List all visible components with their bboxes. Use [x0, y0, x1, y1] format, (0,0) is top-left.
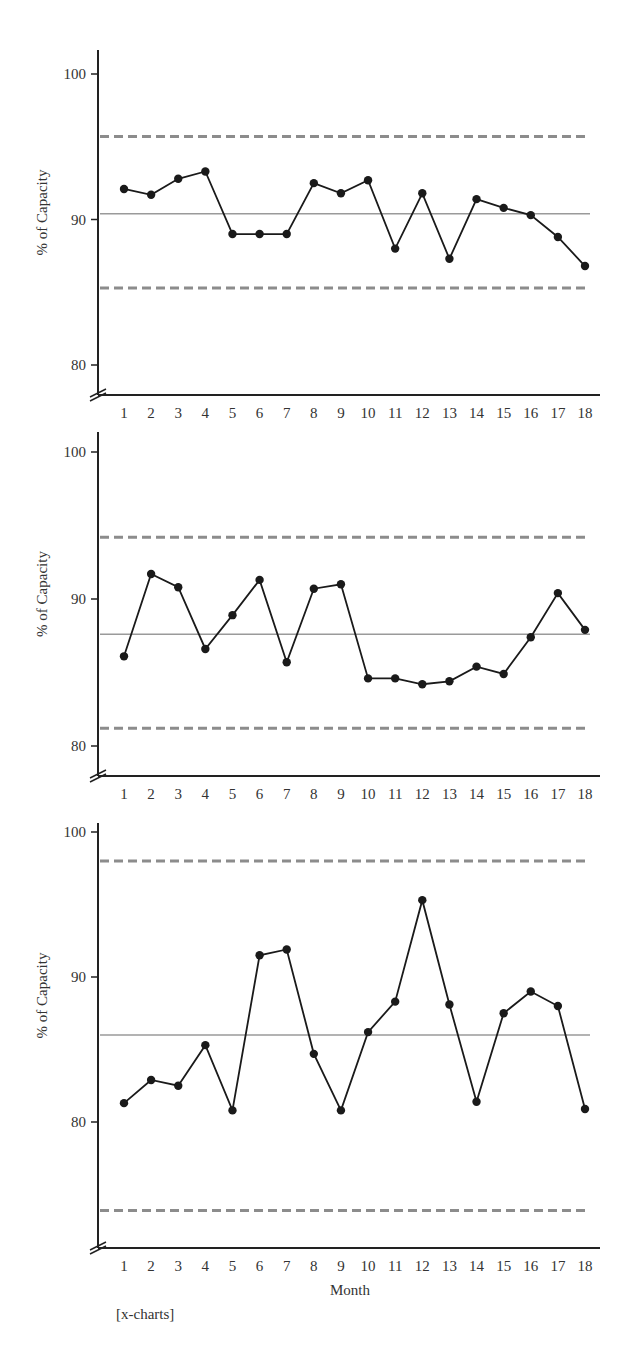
x-tick-label: 14 [469, 786, 485, 802]
data-point [228, 230, 236, 238]
data-point [255, 951, 263, 959]
x-tick-label: 5 [229, 786, 237, 802]
series-line [124, 574, 585, 684]
x-tick-label: 15 [496, 405, 511, 421]
data-point [120, 1099, 128, 1107]
x-tick-label: 17 [550, 786, 566, 802]
x-tick-label: 9 [337, 786, 345, 802]
data-point [527, 211, 535, 219]
series-line [124, 171, 585, 266]
data-point [391, 244, 399, 252]
y-axis-title: % of Capacity [34, 169, 50, 255]
data-point [364, 1028, 372, 1036]
data-point [228, 1106, 236, 1114]
data-point [228, 611, 236, 619]
chart-note: [x-charts] [116, 1306, 174, 1323]
x-tick-label: 15 [496, 786, 511, 802]
data-point [337, 1106, 345, 1114]
x-tick-label: 10 [361, 405, 376, 421]
data-point [283, 945, 291, 953]
x-tick-label: 12 [415, 1258, 430, 1274]
y-axis-title: % of Capacity [34, 952, 50, 1038]
x-tick-label: 6 [256, 405, 264, 421]
data-point [201, 1041, 209, 1049]
x-tick-label: 18 [578, 786, 593, 802]
x-tick-label: 17 [550, 405, 566, 421]
x-tick-label: 8 [310, 786, 318, 802]
x-tick-label: 3 [174, 1258, 182, 1274]
data-point [445, 1000, 453, 1008]
x-tick-label: 8 [310, 1258, 318, 1274]
x-tick-label: 13 [442, 1258, 457, 1274]
data-point [472, 662, 480, 670]
x-tick-label: 1 [120, 786, 128, 802]
data-point [499, 1009, 507, 1017]
control-charts: 8090100% of Capacity12345678910111213141… [0, 0, 634, 1347]
x-tick-label: 4 [202, 405, 210, 421]
x-tick-label: 3 [174, 786, 182, 802]
chart-panel-3: 8090100% of Capacity12345678910111213141… [34, 823, 600, 1274]
x-tick-label: 2 [147, 405, 155, 421]
data-point [364, 176, 372, 184]
x-tick-label: 5 [229, 405, 237, 421]
y-tick-label: 90 [71, 212, 86, 228]
data-point [554, 233, 562, 241]
x-tick-label: 10 [361, 786, 376, 802]
data-point [255, 230, 263, 238]
data-point [310, 179, 318, 187]
data-point [499, 670, 507, 678]
y-tick-label: 100 [64, 66, 87, 82]
data-point [364, 674, 372, 682]
chart-panel-2: 8090100% of Capacity12345678910111213141… [34, 432, 600, 802]
data-point [554, 589, 562, 597]
data-point [554, 1002, 562, 1010]
data-point [255, 576, 263, 584]
x-tick-label: 1 [120, 1258, 128, 1274]
x-tick-label: 16 [523, 405, 539, 421]
chart-panel-1: 8090100% of Capacity12345678910111213141… [34, 50, 600, 421]
x-tick-label: 4 [202, 1258, 210, 1274]
x-tick-label: 11 [388, 1258, 402, 1274]
data-point [445, 677, 453, 685]
y-tick-label: 100 [64, 824, 87, 840]
data-point [120, 652, 128, 660]
x-tick-label: 14 [469, 405, 485, 421]
data-point [310, 1050, 318, 1058]
x-tick-label: 18 [578, 1258, 593, 1274]
data-point [283, 658, 291, 666]
x-tick-label: 13 [442, 405, 457, 421]
y-tick-label: 100 [64, 444, 87, 460]
x-tick-label: 7 [283, 405, 291, 421]
x-tick-label: 8 [310, 405, 318, 421]
x-tick-label: 11 [388, 405, 402, 421]
x-tick-label: 16 [523, 1258, 539, 1274]
data-point [445, 255, 453, 263]
data-point [147, 570, 155, 578]
x-tick-label: 14 [469, 1258, 485, 1274]
data-point [174, 1082, 182, 1090]
y-axis-title: % of Capacity [34, 551, 50, 637]
x-tick-label: 17 [550, 1258, 566, 1274]
x-tick-label: 9 [337, 405, 345, 421]
x-tick-label: 18 [578, 405, 593, 421]
data-point [581, 626, 589, 634]
y-tick-label: 90 [71, 969, 86, 985]
x-tick-label: 13 [442, 786, 457, 802]
data-point [147, 1076, 155, 1084]
data-point [201, 645, 209, 653]
x-tick-label: 1 [120, 405, 128, 421]
data-point [147, 191, 155, 199]
x-tick-label: 4 [202, 786, 210, 802]
x-tick-label: 3 [174, 405, 182, 421]
data-point [472, 195, 480, 203]
data-point [201, 167, 209, 175]
data-point [337, 580, 345, 588]
series-line [124, 900, 585, 1110]
x-axis-title: Month [330, 1282, 370, 1299]
data-point [391, 674, 399, 682]
x-tick-label: 2 [147, 1258, 155, 1274]
x-tick-label: 12 [415, 786, 430, 802]
data-point [527, 633, 535, 641]
data-point [581, 262, 589, 270]
data-point [174, 175, 182, 183]
